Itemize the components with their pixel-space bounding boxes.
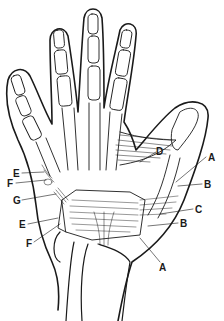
ring-finger-bones xyxy=(53,30,78,170)
label-g: G xyxy=(13,196,21,206)
index-finger-bones xyxy=(106,29,132,170)
label-b-upper: B xyxy=(204,180,211,190)
label-a-lower: A xyxy=(159,263,166,273)
hand-anatomy-diagram xyxy=(0,0,224,321)
carpal-ligaments xyxy=(58,190,145,245)
label-b-lower: B xyxy=(180,219,187,229)
adductor-muscle xyxy=(116,132,176,165)
label-f-upper: F xyxy=(7,179,13,189)
label-e-upper: E xyxy=(13,169,20,179)
forearm-bones xyxy=(54,232,130,321)
little-finger-bones xyxy=(10,74,60,176)
label-a-upper: A xyxy=(208,153,215,163)
label-f-lower: F xyxy=(26,239,32,249)
label-c: C xyxy=(195,205,202,215)
middle-finger-bones xyxy=(88,14,100,170)
thumb-bones xyxy=(148,108,198,218)
label-e-lower: E xyxy=(19,220,26,230)
label-d: D xyxy=(156,147,163,157)
